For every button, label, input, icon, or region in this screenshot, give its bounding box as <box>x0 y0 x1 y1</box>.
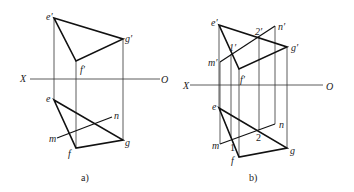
axis-label-o: O <box>161 74 168 85</box>
label-m: m <box>212 140 219 151</box>
label-e-prime: e′ <box>211 17 218 28</box>
label-e-prime: e′ <box>46 11 53 22</box>
label-f: f <box>68 148 72 159</box>
label-g-prime: g′ <box>291 42 299 53</box>
label-1: 1 <box>230 142 235 153</box>
label-f: f <box>231 155 235 166</box>
axis-label-x: X <box>182 80 190 91</box>
axis-label-o: O <box>326 81 333 92</box>
projection-diagram: e′ g′ f′ X O e n m g f a) e′ 2′ n′ 1′ g <box>0 0 354 192</box>
label-2: 2 <box>256 132 261 143</box>
caption-b: b) <box>249 172 257 184</box>
label-g: g <box>290 145 295 156</box>
label-e: e <box>212 101 217 112</box>
axis-label-x: X <box>19 73 27 84</box>
triangle-top-view <box>54 100 123 148</box>
label-2-prime: 2′ <box>255 26 263 37</box>
label-n: n <box>114 110 119 121</box>
label-n: n <box>279 119 284 130</box>
diagram-svg: e′ g′ f′ X O e n m g f a) e′ 2′ n′ 1′ g <box>0 0 354 192</box>
line-mn <box>57 117 112 138</box>
label-m: m <box>49 133 56 144</box>
label-n-prime: n′ <box>278 21 286 32</box>
figure-a: e′ g′ f′ X O e n m g f a) <box>19 11 168 184</box>
label-f-prime: f′ <box>80 64 86 75</box>
caption-a: a) <box>81 172 89 184</box>
line-mn <box>220 124 275 144</box>
triangle-front-view <box>54 18 123 61</box>
figure-b: e′ 2′ n′ 1′ g′ m′ f′ X O e n 2 m 1 g f b… <box>182 17 333 184</box>
label-e: e <box>46 93 51 104</box>
label-1-prime: 1′ <box>229 42 237 53</box>
label-g-prime: g′ <box>125 33 133 44</box>
label-g: g <box>125 137 130 148</box>
label-m-prime: m′ <box>208 57 218 68</box>
label-f-prime: f′ <box>240 74 246 85</box>
